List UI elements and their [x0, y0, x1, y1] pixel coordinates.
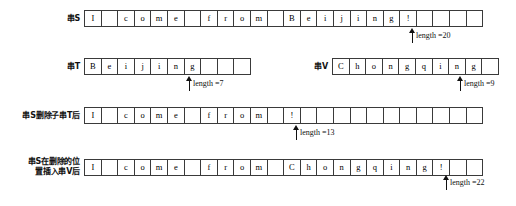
- length-label-string-t: length =7: [193, 79, 224, 89]
- char-cell: [268, 108, 285, 123]
- char-cell: [185, 11, 202, 26]
- char-cell: n: [367, 11, 384, 26]
- cell-strip-string-v: Chongqing: [332, 58, 499, 75]
- char-cell: e: [168, 160, 185, 175]
- char-cell: I: [85, 108, 102, 123]
- char-cell: [367, 108, 384, 123]
- char-cell: f: [201, 11, 218, 26]
- char-cell: e: [301, 11, 318, 26]
- char-cell: [268, 160, 285, 175]
- char-cell: r: [218, 11, 235, 26]
- char-cell: [185, 108, 202, 123]
- char-cell: h: [350, 59, 367, 74]
- row-label-string-s: 串S: [0, 14, 80, 24]
- diagram-row-string-s-after-delete: 串S删除子串T后 Icomefrom!: [0, 107, 505, 124]
- char-cell: m: [251, 160, 268, 175]
- char-cell: c: [118, 11, 135, 26]
- char-cell: [450, 108, 467, 123]
- char-cell: r: [218, 160, 235, 175]
- char-cell: e: [168, 108, 185, 123]
- char-cell: B: [85, 59, 102, 74]
- char-cell: h: [301, 160, 318, 175]
- char-cell: m: [151, 11, 168, 26]
- length-label-string-s: length =20: [416, 31, 451, 41]
- char-cell: q: [367, 160, 384, 175]
- char-cell: [268, 11, 285, 26]
- char-cell: e: [168, 11, 185, 26]
- char-cell: !: [433, 160, 450, 175]
- char-cell: [201, 59, 218, 74]
- length-annotation-string-s: length =20: [407, 28, 419, 43]
- char-cell: g: [417, 160, 434, 175]
- char-cell: [351, 108, 368, 123]
- char-cell: o: [234, 11, 251, 26]
- char-cell: i: [384, 160, 401, 175]
- length-label-string-s-after-insert: length =22: [450, 178, 485, 188]
- char-cell: [417, 108, 434, 123]
- length-annotation-string-s-after-delete: length =13: [291, 125, 303, 140]
- string-operation-diagram: 串S IcomefromBeijing! length =20 串T Beiji…: [0, 0, 516, 206]
- diagram-row-string-s: 串S IcomefromBeijing!: [0, 10, 505, 27]
- length-label-string-v: length =9: [464, 79, 495, 89]
- char-cell: [102, 160, 119, 175]
- char-cell: !: [284, 108, 301, 123]
- char-cell: o: [135, 108, 152, 123]
- diagram-row-string-s-after-insert: 串S在删除的位 置插入串V后 IcomefromChongqing!: [0, 157, 505, 177]
- char-cell: g: [466, 59, 483, 74]
- char-cell: [467, 11, 484, 26]
- char-cell: g: [384, 11, 401, 26]
- char-cell: g: [185, 59, 202, 74]
- char-cell: [301, 108, 318, 123]
- char-cell: [102, 108, 119, 123]
- char-cell: m: [251, 108, 268, 123]
- char-cell: C: [284, 160, 301, 175]
- char-cell: [482, 59, 499, 74]
- char-cell: [334, 108, 351, 123]
- char-cell: i: [433, 59, 450, 74]
- char-cell: o: [135, 11, 152, 26]
- char-cell: [450, 11, 467, 26]
- char-cell: !: [400, 11, 417, 26]
- char-cell: o: [234, 160, 251, 175]
- char-cell: i: [317, 11, 334, 26]
- char-cell: B: [284, 11, 301, 26]
- char-cell: i: [118, 59, 135, 74]
- length-annotation-string-v: length =9: [455, 76, 467, 91]
- cell-strip-string-t: Beijing: [84, 58, 251, 75]
- char-cell: e: [102, 59, 119, 74]
- char-cell: c: [118, 108, 135, 123]
- char-cell: [433, 11, 450, 26]
- char-cell: [417, 11, 434, 26]
- char-cell: m: [151, 108, 168, 123]
- diagram-row-string-t: 串T Beijing: [0, 58, 260, 75]
- char-cell: n: [449, 59, 466, 74]
- char-cell: C: [333, 59, 350, 74]
- char-cell: n: [334, 160, 351, 175]
- char-cell: f: [201, 160, 218, 175]
- cell-strip-string-s-after-delete: Icomefrom!: [84, 107, 483, 124]
- char-cell: o: [135, 160, 152, 175]
- row-label-string-s-after-insert: 串S在删除的位 置插入串V后: [0, 157, 80, 177]
- char-cell: [102, 11, 119, 26]
- row-label-string-v: 串V: [300, 62, 328, 72]
- char-cell: f: [201, 108, 218, 123]
- char-cell: I: [85, 11, 102, 26]
- char-cell: i: [151, 59, 168, 74]
- char-cell: [384, 108, 401, 123]
- char-cell: g: [351, 160, 368, 175]
- char-cell: [185, 160, 202, 175]
- char-cell: o: [234, 108, 251, 123]
- char-cell: j: [334, 11, 351, 26]
- cell-strip-string-s-after-insert: IcomefromChongqing!: [84, 159, 483, 176]
- char-cell: i: [351, 11, 368, 26]
- char-cell: [218, 59, 235, 74]
- char-cell: [467, 108, 484, 123]
- char-cell: c: [118, 160, 135, 175]
- char-cell: I: [85, 160, 102, 175]
- row-label-string-t: 串T: [0, 62, 80, 72]
- char-cell: [317, 108, 334, 123]
- row-label-string-s-after-delete: 串S删除子串T后: [0, 111, 80, 121]
- char-cell: n: [168, 59, 185, 74]
- char-cell: n: [383, 59, 400, 74]
- char-cell: [450, 160, 467, 175]
